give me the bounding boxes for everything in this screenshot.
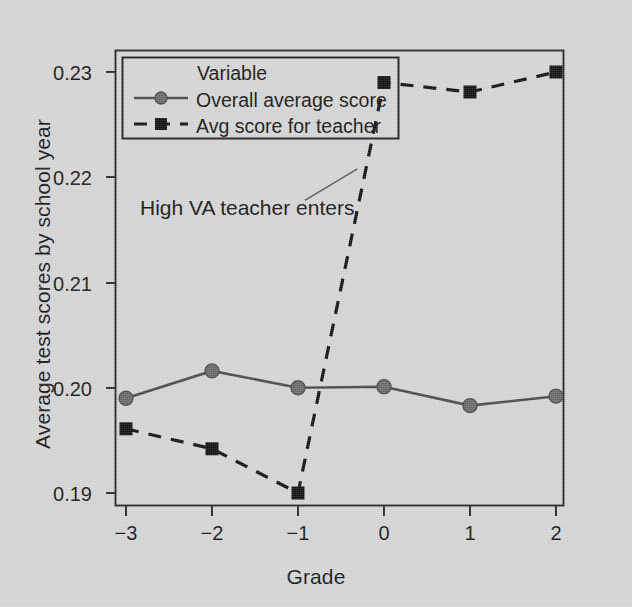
chart-figure: Average test scores by school year Grade… bbox=[0, 0, 632, 607]
data-point bbox=[120, 422, 133, 435]
data-point bbox=[464, 86, 477, 99]
legend-swatch-overall-average-score bbox=[134, 92, 188, 104]
series-line-avg-score-for-teacher bbox=[126, 72, 556, 493]
plot-frame bbox=[116, 51, 564, 506]
plot-canvas bbox=[0, 0, 632, 607]
y-tick-marks bbox=[106, 72, 115, 493]
series-line-overall-average-score bbox=[126, 371, 556, 406]
x-tick-marks bbox=[126, 506, 556, 516]
data-point bbox=[378, 76, 391, 89]
data-point bbox=[292, 487, 305, 500]
data-point bbox=[205, 364, 219, 378]
data-point bbox=[377, 380, 391, 394]
data-point bbox=[549, 389, 563, 403]
data-point bbox=[463, 399, 477, 413]
data-point bbox=[119, 391, 133, 405]
data-point bbox=[206, 442, 219, 455]
data-point bbox=[550, 66, 563, 79]
data-point bbox=[291, 381, 305, 395]
legend-swatch-avg-score-for-teacher bbox=[134, 118, 188, 130]
annotation-leader-line bbox=[305, 169, 357, 201]
